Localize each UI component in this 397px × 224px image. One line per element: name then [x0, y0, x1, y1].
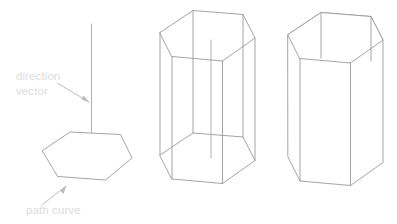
figure-solid-extruded-prism — [288, 13, 383, 186]
wireframe-prism-bottom-hexagon — [160, 133, 255, 184]
path-curve-label: path curve — [26, 204, 81, 216]
path-curve-hexagon — [43, 132, 133, 180]
direction-vector-label-line1: direction — [16, 70, 60, 82]
direction-vector-leader-arrowhead — [82, 96, 90, 103]
figure-wireframe-extruded-prism — [160, 11, 255, 184]
wireframe-prism-top-hexagon — [160, 11, 255, 62]
direction-vector-label-line2: vector — [16, 85, 48, 97]
figure-path-curve-with-direction-vector: direction vector path curve — [16, 24, 132, 216]
extrusion-diagram-svg: direction vector path curve — [0, 0, 397, 224]
extrusion-diagram-canvas: direction vector path curve — [0, 0, 397, 224]
